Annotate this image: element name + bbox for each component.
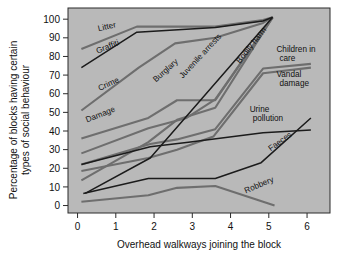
line-chart: LitterGraffitiCrimeDamageBurglaryJuvenil… [0,0,345,256]
y-tick-label: 30 [49,144,61,155]
chart-figure: LitterGraffitiCrimeDamageBurglaryJuvenil… [0,0,345,256]
series-label: care [279,54,295,63]
x-tick-label: 0 [75,221,81,232]
y-tick-label: 70 [49,70,61,81]
series-label: Vandal [276,70,301,79]
y-tick-label: 40 [49,126,61,137]
x-tick-label: 3 [190,221,196,232]
y-axis-title-line2: types of social behaviour [20,64,31,175]
series-label: Urine [250,105,270,114]
y-tick-label: 0 [54,200,60,211]
y-tick-label: 90 [49,32,61,43]
y-tick-label: 20 [49,163,61,174]
y-tick-label: 100 [43,14,60,25]
series-label: damage [279,79,309,88]
y-axis-title-line1: Percentage of blocks having certain [8,41,19,199]
y-tick-label: 10 [49,182,61,193]
y-tick-label: 80 [49,51,61,62]
x-tick-label: 1 [113,221,119,232]
x-tick-label: 4 [228,221,234,232]
x-axis-title: Overhead walkways joining the block [117,239,282,250]
series-label: Children in [276,45,316,54]
series-label: pollution [253,114,284,123]
x-tick-label: 6 [304,221,310,232]
y-tick-label: 50 [49,107,61,118]
y-tick-label: 60 [49,88,61,99]
x-tick-label: 2 [151,221,157,232]
x-tick-label: 5 [266,221,272,232]
